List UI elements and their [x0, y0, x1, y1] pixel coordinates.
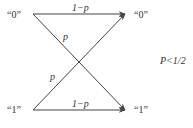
input-node-0-label: “0”	[7, 9, 21, 20]
output-node-1-label: “1”	[134, 104, 148, 115]
input-node-1-label: “1”	[7, 104, 21, 115]
output-node-0-label: “0”	[134, 9, 148, 20]
edge-0-to-0-label: 1−p	[72, 2, 89, 13]
condition-label: P<1/2	[159, 55, 186, 66]
edge-0-to-1-label: p	[62, 31, 68, 42]
edge-1-to-1-label: 1−p	[72, 98, 89, 109]
bsc-diagram: “0” “1” “0” “1” 1−p p p 1−p P<1/2	[0, 0, 193, 128]
edge-1-to-0-label: p	[49, 71, 55, 82]
